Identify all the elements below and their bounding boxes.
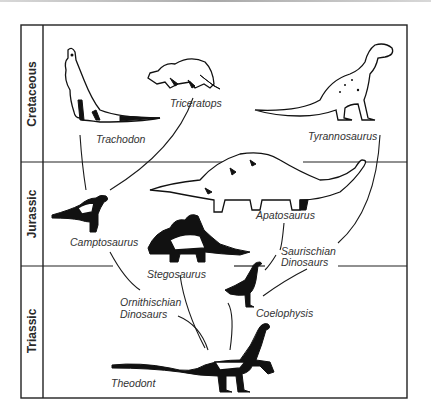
svg-text:Ornithischian: Ornithischian xyxy=(120,296,181,308)
triceratops-illustration xyxy=(148,59,220,89)
camptosaurus-illustration xyxy=(52,195,108,232)
label-theodont: Theodont xyxy=(111,377,156,389)
line-saurischian-branch xyxy=(265,255,276,270)
label-saurischian-dinosaurs: Saurischian Dinosaurs xyxy=(281,245,336,268)
trachodon-illustration xyxy=(65,48,160,122)
label-camptosaurus: Camptosaurus xyxy=(70,236,139,248)
stegosaurus-illustration xyxy=(148,215,250,262)
label-coelophysis: Coelophysis xyxy=(256,307,314,319)
label-apatosaurus: Apatosaurus xyxy=(255,209,316,221)
tyrannosaurus-illustration xyxy=(255,44,393,120)
label-ornithischian-dinosaurs: Ornithischian Dinosaurs xyxy=(120,296,181,320)
era-label-cretaceous: Cretaceous xyxy=(25,61,39,127)
label-triceratops: Triceratops xyxy=(170,97,222,109)
svg-text:Dinosaurs: Dinosaurs xyxy=(281,256,329,268)
era-label-triassic: Triassic xyxy=(25,308,39,353)
label-trachodon: Trachodon xyxy=(96,133,146,145)
dinosaur-evolution-diagram: Cretaceous Jurassic Triassic xyxy=(0,0,431,420)
line-saurischian-coelophysis xyxy=(263,269,307,296)
label-stegosaurus: Stegosaurus xyxy=(147,268,207,280)
coelophysis-illustration xyxy=(225,262,262,307)
line-theodont-coelophysis xyxy=(228,303,232,350)
label-tyrannosaurus: Tyrannosaurus xyxy=(308,130,378,142)
line-ornithischian-camptosaurus xyxy=(110,252,140,290)
svg-text:Dinosaurs: Dinosaurs xyxy=(120,308,168,320)
era-label-jurassic: Jurassic xyxy=(25,189,39,238)
line-stegosaurus-theodont xyxy=(180,275,205,348)
